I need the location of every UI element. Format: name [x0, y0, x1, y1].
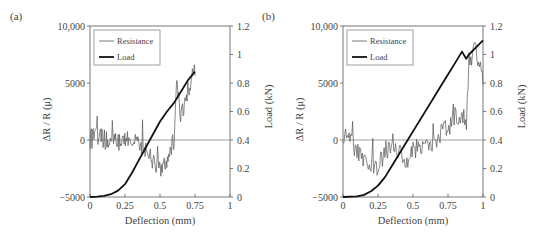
x-axis-label: Deflection (mm) — [125, 215, 196, 227]
y-right-tick-label: 0.2 — [490, 163, 503, 174]
y-right-tick-label: 0 — [237, 192, 242, 203]
x-tick-label: 0.25 — [369, 200, 387, 211]
y-left-tick-label: −5000 — [312, 192, 338, 203]
y-right-tick-label: 1 — [237, 49, 242, 60]
y-left-tick-label: 5000 — [318, 78, 338, 89]
x-tick-label: 0.5 — [407, 200, 420, 211]
panel-b: (b)00.250.50.751Deflection (mm)10,000500… — [262, 10, 528, 227]
y-left-tick-label: 10,000 — [58, 21, 86, 32]
y-left-axis-label: ΔR / R (μ) — [294, 97, 306, 142]
x-tick-label: 1 — [228, 200, 233, 211]
x-tick-label: 0.75 — [186, 200, 204, 211]
x-tick-label: 1 — [481, 200, 486, 211]
figure: (a)00.250.50.751Deflection (mm)10,000500… — [0, 0, 536, 238]
x-tick-label: 0.75 — [439, 200, 457, 211]
panel-label: (a) — [10, 10, 23, 23]
panel-label: (b) — [262, 10, 275, 23]
x-tick-label: 0.25 — [116, 200, 134, 211]
y-right-tick-label: 0.8 — [237, 78, 250, 89]
x-axis-label: Deflection (mm) — [378, 215, 449, 227]
y-right-tick-label: 0.6 — [490, 106, 503, 117]
legend-resistance: Resistance — [370, 36, 407, 46]
legend: ResistanceLoad — [94, 30, 160, 65]
y-right-tick-label: 1 — [490, 49, 495, 60]
legend-resistance: Resistance — [117, 36, 154, 46]
legend: ResistanceLoad — [347, 30, 413, 65]
y-right-tick-label: 0.8 — [490, 78, 503, 89]
resistance-series — [90, 65, 195, 176]
legend-load: Load — [370, 52, 388, 62]
y-right-tick-label: 0.4 — [490, 135, 503, 146]
y-right-tick-label: 0.6 — [237, 106, 250, 117]
y-right-tick-label: 0.2 — [237, 163, 250, 174]
y-right-tick-label: 1.2 — [490, 21, 503, 32]
y-left-tick-label: 0 — [333, 135, 338, 146]
y-right-tick-label: 0.4 — [237, 135, 250, 146]
x-tick-label: 0 — [88, 200, 93, 211]
y-right-tick-label: 0 — [490, 192, 495, 203]
y-left-tick-label: −5000 — [59, 192, 85, 203]
panel-a: (a)00.250.50.751Deflection (mm)10,000500… — [10, 10, 275, 227]
y-left-tick-label: 10,000 — [311, 21, 339, 32]
y-left-axis-label: ΔR / R (μ) — [41, 97, 53, 142]
legend-load: Load — [117, 52, 135, 62]
y-left-tick-label: 5000 — [65, 78, 85, 89]
x-tick-label: 0 — [341, 200, 346, 211]
x-tick-label: 0.5 — [154, 200, 167, 211]
y-right-axis-label: Load (kN) — [516, 84, 528, 129]
y-right-tick-label: 1.2 — [237, 21, 250, 32]
y-left-tick-label: 0 — [80, 135, 85, 146]
y-right-axis-label: Load (kN) — [263, 84, 275, 129]
